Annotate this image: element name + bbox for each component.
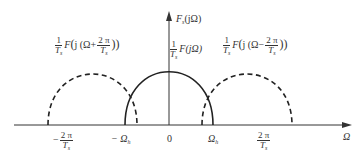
right-replica-curve [202, 74, 292, 125]
tick-neg-omega-h: − Ωh [111, 134, 130, 145]
x-axis-arrow-icon [342, 122, 352, 128]
right-replica-label: 1TsF(j (Ω−2 πTs)) [221, 36, 287, 56]
left-replica-curve [48, 74, 137, 125]
tick-omega-h: Ωh [208, 134, 218, 145]
tick-neg-2pi-ts: −2 πTs [53, 131, 74, 151]
x-axis-label: Ω [343, 132, 350, 142]
y-axis-label: Fs(jΩ) [176, 14, 201, 25]
tick-pos-2pi-ts: 2 πTs [256, 131, 271, 151]
baseband-label: 1TsF(jΩ) [168, 40, 202, 60]
tick-zero: 0 [167, 134, 172, 144]
y-axis-arrow-icon [166, 11, 172, 21]
left-replica-label: 1TsF(j (Ω+2 πTs)) [53, 36, 119, 56]
